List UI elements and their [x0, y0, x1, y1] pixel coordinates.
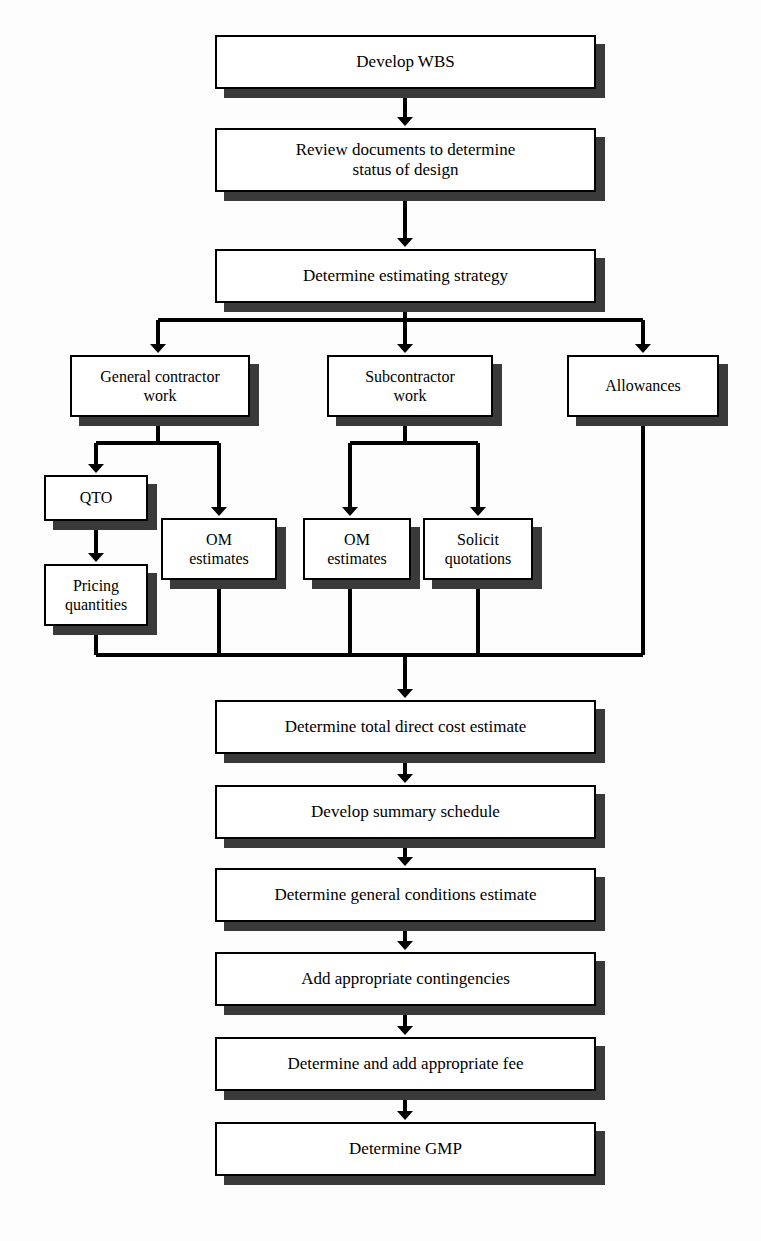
node-label-add-contingencies: Add appropriate contingencies: [297, 969, 514, 989]
node-label-determine-gmp: Determine GMP: [345, 1139, 466, 1159]
node-label-develop-summary-schedule: Develop summary schedule: [307, 802, 504, 822]
node-label-develop-wbs: Develop WBS: [352, 52, 458, 72]
node-develop-summary-schedule[interactable]: Develop summary schedule: [215, 785, 596, 839]
node-label-determine-general-conditions: Determine general conditions estimate: [271, 885, 541, 905]
node-label-determine-total-direct-cost: Determine total direct cost estimate: [281, 717, 531, 737]
node-allowances[interactable]: Allowances: [567, 355, 719, 417]
node-om-estimates-gc[interactable]: OM estimates: [161, 518, 277, 580]
node-solicit-quotations[interactable]: Solicit quotations: [423, 518, 533, 580]
node-label-determine-add-fee: Determine and add appropriate fee: [284, 1054, 528, 1074]
node-label-allowances: Allowances: [601, 376, 685, 395]
flowchart-page: Develop WBSReview documents to determine…: [0, 0, 761, 1241]
node-determine-add-fee[interactable]: Determine and add appropriate fee: [215, 1037, 596, 1091]
node-qto[interactable]: QTO: [44, 475, 148, 521]
node-general-contractor-work[interactable]: General contractor work: [70, 355, 250, 417]
node-determine-gmp[interactable]: Determine GMP: [215, 1122, 596, 1176]
node-label-om-estimates-gc: OM estimates: [185, 530, 253, 568]
node-subcontractor-work[interactable]: Subcontractor work: [327, 355, 493, 417]
node-develop-wbs[interactable]: Develop WBS: [215, 35, 596, 89]
node-add-contingencies[interactable]: Add appropriate contingencies: [215, 952, 596, 1006]
node-determine-estimating-strategy[interactable]: Determine estimating strategy: [215, 249, 596, 303]
node-label-solicit-quotations: Solicit quotations: [441, 530, 516, 568]
node-review-documents[interactable]: Review documents to determine status of …: [215, 128, 596, 192]
node-label-subcontractor-work: Subcontractor work: [361, 367, 459, 405]
node-pricing-quantities[interactable]: Pricing quantities: [44, 564, 148, 626]
node-label-review-documents: Review documents to determine status of …: [292, 140, 520, 181]
node-label-pricing-quantities: Pricing quantities: [61, 576, 131, 614]
node-om-estimates-sub[interactable]: OM estimates: [303, 518, 411, 580]
node-determine-total-direct-cost[interactable]: Determine total direct cost estimate: [215, 700, 596, 754]
node-label-qto: QTO: [76, 488, 117, 507]
node-determine-general-conditions[interactable]: Determine general conditions estimate: [215, 868, 596, 922]
node-label-om-estimates-sub: OM estimates: [323, 530, 391, 568]
node-label-determine-estimating-strategy: Determine estimating strategy: [299, 266, 512, 286]
node-layer: Develop WBSReview documents to determine…: [0, 0, 761, 1241]
node-label-general-contractor-work: General contractor work: [96, 367, 223, 405]
